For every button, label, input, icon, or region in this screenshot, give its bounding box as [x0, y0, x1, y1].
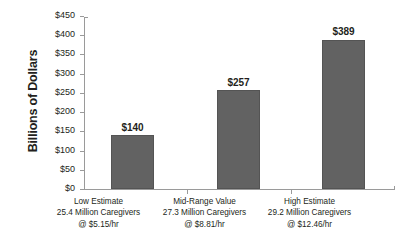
- y-tick-label-8: $400: [55, 28, 75, 41]
- y-tick-3: $150: [80, 131, 84, 132]
- y-tick-6: $300: [80, 74, 84, 75]
- x-category-label-low-estimate: Low Estimate 25.4 Million Caregivers @ $…: [41, 196, 156, 230]
- category-rate-1: @ $8.81/hr: [147, 219, 262, 230]
- y-tick-0: $0: [80, 189, 84, 190]
- y-tick-label-7: $350: [55, 47, 75, 60]
- category-name-1: Mid-Range Value: [147, 196, 262, 207]
- y-axis-top-cap: [84, 17, 88, 18]
- y-tick-9: $450: [80, 16, 84, 17]
- category-caregivers-1: 27.3 Million Caregivers: [147, 207, 262, 218]
- y-tick-7: $350: [80, 54, 84, 55]
- category-name-2: High Estimate: [252, 196, 367, 207]
- bar-value-label-high-estimate: $389: [322, 26, 365, 37]
- y-tick-label-6: $300: [55, 67, 75, 80]
- x-category-label-mid-range-value: Mid-Range Value 27.3 Million Caregivers …: [147, 196, 262, 230]
- y-tick-label-4: $200: [55, 105, 75, 118]
- bar-chart: Billions of Dollars $0 $50 $100 $150 $20…: [0, 0, 418, 243]
- x-tick-2: [291, 190, 292, 194]
- y-tick-label-9: $450: [55, 9, 75, 22]
- plot-area: $0 $50 $100 $150 $200 $250 $300 $350 $40…: [84, 17, 395, 190]
- y-tick-4: $200: [80, 112, 84, 113]
- category-rate-0: @ $5.15/hr: [41, 219, 156, 230]
- y-tick-1: $50: [80, 170, 84, 171]
- y-tick-8: $400: [80, 35, 84, 36]
- y-tick-5: $250: [80, 93, 84, 94]
- x-axis-right-cap: [394, 186, 395, 190]
- category-caregivers-0: 25.4 Million Caregivers: [41, 207, 156, 218]
- y-tick-label-0: $0: [65, 182, 75, 195]
- bar-low-estimate[interactable]: [111, 135, 154, 189]
- bar-high-estimate[interactable]: [322, 40, 365, 190]
- y-tick-label-5: $250: [55, 86, 75, 99]
- y-tick-label-3: $150: [55, 124, 75, 137]
- y-axis-line: [84, 17, 85, 190]
- y-axis-title: Billions of Dollars: [26, 21, 40, 181]
- x-category-label-high-estimate: High Estimate 29.2 Million Caregivers @ …: [252, 196, 367, 230]
- x-tick-1: [187, 190, 188, 194]
- bar-value-label-low-estimate: $140: [111, 122, 154, 133]
- bar-value-label-mid-range-value: $257: [217, 77, 260, 88]
- bar-mid-range-value[interactable]: [217, 90, 260, 189]
- y-tick-2: $100: [80, 151, 84, 152]
- category-caregivers-2: 29.2 Million Caregivers: [252, 207, 367, 218]
- category-rate-2: @ $12.46/hr: [252, 219, 367, 230]
- category-name-0: Low Estimate: [41, 196, 156, 207]
- y-tick-label-1: $50: [60, 163, 75, 176]
- y-tick-label-2: $100: [55, 144, 75, 157]
- x-axis-line: [84, 189, 395, 190]
